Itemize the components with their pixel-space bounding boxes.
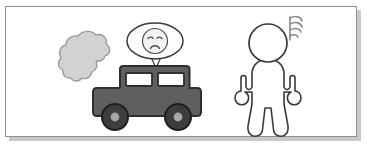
car-icon (93, 66, 201, 130)
car-window-rear (158, 73, 184, 86)
annoyance-squiggle-stroke-3 (290, 29, 301, 32)
sad-face-icon (143, 29, 168, 54)
person-body (235, 59, 301, 136)
annoyance-squiggle-stroke-2 (290, 23, 302, 27)
illustration-panel-root: Car exhaust pollution illustration A dar… (0, 0, 367, 148)
smoke-cloud-icon (59, 31, 110, 81)
scene-illustration (0, 0, 367, 148)
smoke-cloud-shape (59, 31, 110, 81)
person-icon (235, 24, 301, 136)
car-wheel-front-hub (110, 112, 120, 122)
person-head (249, 24, 287, 62)
annoyance-squiggle-stroke-1 (290, 17, 302, 21)
annoyance-squiggle-icon (290, 17, 302, 40)
car-window-front (126, 73, 152, 86)
car-wheel-front (102, 104, 128, 130)
car-wheel-rear (165, 104, 191, 130)
annoyance-squiggle-stroke-4 (290, 35, 298, 37)
thought-bubble-icon (127, 23, 183, 68)
car-wheel-rear-hub (173, 112, 183, 122)
sad-face-head (143, 29, 168, 54)
